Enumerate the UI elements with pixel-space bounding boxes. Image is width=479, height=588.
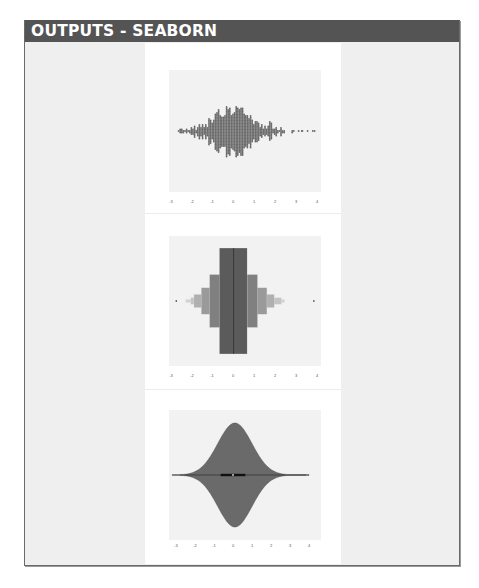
tick-label: -3 [169,199,173,204]
boxenplot-chart: -3 -2 -1 0 1 2 3 4 [145,214,341,389]
section-header: OUTPUTS - SEABORN [25,20,459,42]
tick-label: 4 [316,199,319,204]
tick-label: 1 [253,199,256,204]
tick-label: 4 [308,543,311,548]
tick-label: 0 [232,373,235,378]
tick-label: -2 [190,373,194,378]
tick-label: -1 [210,199,214,204]
boxenplot-x-ticks: -3 -2 -1 0 1 2 3 4 [169,373,319,378]
tick-label: 1 [253,373,256,378]
violinplot-x-ticks: -3 -2 -1 0 1 2 3 4 [174,543,311,548]
tick-label: 3 [295,199,298,204]
tick-label: -2 [193,543,197,548]
swarmplot-chart: -3 -2 -1 0 1 2 3 4 [145,43,341,213]
tick-label: -3 [169,373,173,378]
tick-label: 0 [232,199,235,204]
tick-label: 3 [295,373,298,378]
tick-label: 4 [316,373,319,378]
tick-label: 2 [274,373,277,378]
swarmplot-x-ticks: -3 -2 -1 0 1 2 3 4 [169,199,319,204]
outputs-frame: OUTPUTS - SEABORN -3 -2 -1 0 1 2 3 4 [24,20,460,566]
tick-label: 2 [270,543,273,548]
tick-label: -2 [190,199,194,204]
violinplot-chart: -3 -2 -1 0 1 2 3 4 [145,390,341,564]
tick-label: 3 [289,543,292,548]
violinplot-figure: -3 -2 -1 0 1 2 3 4 [145,390,341,564]
tick-label: -1 [210,373,214,378]
tick-label: 2 [274,199,277,204]
tick-label: 0 [232,543,235,548]
boxenplot-figure: -3 -2 -1 0 1 2 3 4 [145,214,341,389]
tick-label: 1 [251,543,254,548]
tick-label: -3 [174,543,178,548]
tick-label: -1 [212,543,216,548]
figure-panel: -3 -2 -1 0 1 2 3 4 -3 -2 -1 [145,43,341,564]
swarmplot-figure: -3 -2 -1 0 1 2 3 4 [145,43,341,213]
